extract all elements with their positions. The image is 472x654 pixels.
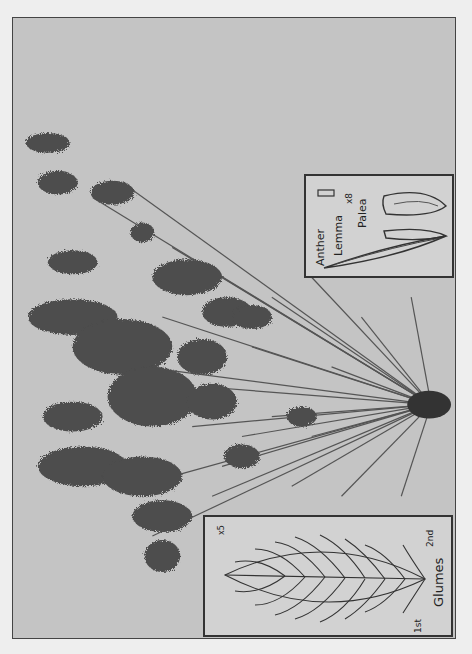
first-glume-label: 1st <box>413 619 423 633</box>
second-glume-label: 2nd <box>425 530 435 547</box>
lemma-label: Lemma <box>332 215 345 256</box>
spikelet-drawing <box>205 517 451 635</box>
spikelet-magnification: x5 <box>217 525 226 535</box>
palea-shape <box>383 193 446 215</box>
anther-label: Anther <box>314 229 327 266</box>
palea-label: Palea <box>356 199 369 228</box>
floret-magnification: x8 <box>344 193 354 204</box>
floret-drawing <box>306 176 452 276</box>
plant-base <box>407 391 451 419</box>
anther-shape <box>318 190 334 196</box>
glumes-label: Glumes <box>431 558 446 607</box>
spikelet-inset: x5 Glumes 2nd 1st <box>203 515 453 637</box>
photo-plate: Anther Lemma Palea x8 x5 Glumes 2nd 1st <box>12 17 456 639</box>
panicles <box>26 133 317 572</box>
floret-inset: Anther Lemma Palea x8 <box>304 174 454 278</box>
